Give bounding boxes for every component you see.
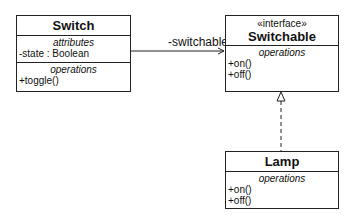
hollow-triangle-icon — [277, 92, 285, 101]
operation: +on() — [228, 184, 336, 195]
association-label: -switchable — [168, 35, 228, 49]
operation: +off() — [228, 195, 336, 206]
class-lamp[interactable]: Lamp operations +on() +off() — [225, 151, 339, 209]
section-title: attributes — [19, 37, 128, 48]
section-title: operations — [228, 47, 336, 58]
stereotype: «interface» — [226, 18, 338, 29]
operation: +off() — [228, 69, 336, 80]
class-name: Lamp — [226, 154, 338, 169]
class-name: Switch — [17, 18, 130, 33]
attribute: -state : Boolean — [19, 48, 128, 59]
class-switch[interactable]: Switch attributes -state : Boolean opera… — [16, 15, 131, 92]
operation: +toggle() — [19, 75, 128, 86]
section-title: operations — [19, 64, 128, 75]
section-title: operations — [228, 173, 336, 184]
operation: +on() — [228, 58, 336, 69]
class-name: Switchable — [226, 29, 338, 44]
class-switchable[interactable]: «interface» Switchable operations +on() … — [225, 15, 339, 92]
